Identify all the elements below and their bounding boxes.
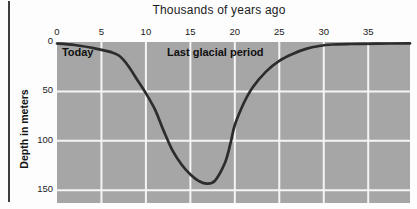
plot-area: Today Last glacial period: [57, 42, 410, 203]
y-tick-label: 0: [48, 36, 53, 46]
y-tick-label: 100: [37, 135, 53, 145]
y-axis-label: Depth in meters: [18, 89, 30, 168]
annotation-today: Today: [62, 46, 94, 58]
x-tick-label: 15: [185, 27, 196, 37]
x-tick-label: 10: [141, 27, 152, 37]
x-tick-label: 30: [318, 27, 329, 37]
y-tick-label: 50: [42, 86, 53, 96]
x-tick-label: 35: [363, 27, 374, 37]
x-tick-label: 5: [99, 27, 104, 37]
x-tick-label: 25: [274, 27, 285, 37]
y-tick-label: 150: [37, 184, 53, 194]
x-tick-label: 0: [54, 27, 59, 37]
glacial-sea-level-figure: Thousands of years ago Depth in meters 0…: [0, 0, 417, 209]
figure-left-border: [8, 1, 10, 202]
gridlines: [57, 42, 410, 203]
annotation-last-glacial-period: Last glacial period: [167, 46, 264, 58]
x-tick-label: 20: [230, 27, 241, 37]
sea-level-curve: [57, 43, 410, 183]
chart-canvas: [57, 42, 410, 203]
x-axis-title: Thousands of years ago: [152, 3, 285, 17]
